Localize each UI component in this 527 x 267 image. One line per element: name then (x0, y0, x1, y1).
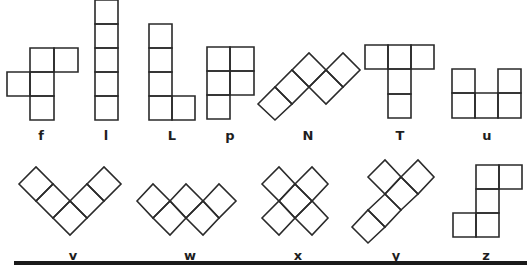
pentomino-cell (476, 189, 499, 213)
pentomino-cell (352, 210, 385, 243)
pentomino-cell (309, 70, 343, 104)
pentomino-cell (452, 69, 475, 93)
pentomino-N (258, 53, 360, 120)
pentomino-x (262, 167, 328, 235)
pentomino-cell (53, 201, 87, 235)
pentomino-cell (292, 53, 326, 87)
pentomino-cell (149, 48, 172, 72)
pentomino-cell (95, 96, 118, 120)
pentomino-cell (95, 48, 118, 72)
pentomino-cell (385, 177, 418, 210)
piece-label-L: L (168, 129, 176, 142)
pentomino-v (19, 167, 121, 235)
pentomino-cell (476, 165, 499, 189)
pentomino-cell (388, 94, 411, 118)
pentomino-cell (258, 87, 292, 120)
pentomino-cell (368, 194, 401, 227)
pentomino-cell (7, 72, 30, 96)
pentomino-cell (30, 96, 54, 120)
pentomino-cell (295, 201, 328, 235)
pentomino-cell (207, 47, 230, 71)
pentomino-u (452, 69, 521, 118)
pentomino-w (137, 184, 236, 235)
pentomino-cell (275, 70, 309, 104)
pentomino-cell (262, 167, 295, 201)
pentomino-cell (170, 184, 203, 218)
bottom-rule (14, 261, 527, 265)
pentomino-cell (186, 201, 219, 235)
pentomino-cell (230, 47, 254, 71)
pentomino-cell (172, 96, 195, 120)
pentomino-cell (149, 24, 172, 48)
pentomino-L (149, 24, 195, 120)
pentomino-cell (137, 184, 170, 218)
pentomino-cell (70, 184, 104, 218)
pentomino-cell (207, 95, 230, 119)
pentomino-cell (95, 0, 118, 24)
piece-label-u: u (482, 129, 491, 142)
piece-label-T: T (396, 129, 405, 142)
pentomino-cell (203, 184, 236, 218)
pentomino-cell (498, 69, 521, 93)
pentomino-l (95, 0, 118, 120)
pentomino-T (365, 45, 434, 118)
pentomino-cell (149, 96, 172, 120)
pentomino-cell (326, 53, 360, 87)
piece-label-l: l (104, 129, 108, 142)
piece-label-N: N (303, 129, 314, 142)
pentomino-cell (475, 93, 498, 118)
pentomino-cell (365, 45, 388, 69)
pentomino-cell (498, 93, 521, 118)
pentomino-cell (401, 160, 434, 194)
pentomino-cell (207, 71, 230, 95)
pentomino-cell (19, 167, 53, 201)
pentomino-cell (388, 45, 411, 69)
pentomino-cell (452, 93, 475, 118)
pentomino-cell (453, 213, 476, 237)
piece-label-p: p (225, 129, 234, 142)
pentomino-cell (153, 201, 186, 235)
pentomino-cell (54, 48, 78, 72)
pentomino-cell (230, 71, 254, 95)
pentomino-cell (368, 160, 401, 194)
piece-label-f: f (38, 129, 44, 142)
pentomino-cell (149, 72, 172, 96)
pentomino-cell (95, 72, 118, 96)
pentomino-y (352, 160, 434, 243)
pentomino-cell (499, 165, 522, 189)
pentomino-cell (388, 69, 411, 94)
pentomino-cell (411, 45, 434, 69)
pentomino-cell (95, 24, 118, 48)
pentomino-f (7, 48, 78, 120)
pentomino-cell (295, 167, 328, 201)
pentomino-z (453, 165, 522, 237)
pentomino-cell (262, 201, 295, 235)
pentomino-cell (476, 213, 499, 237)
pentomino-cell (30, 48, 54, 72)
pentomino-diagram (0, 0, 527, 267)
pentomino-cell (30, 72, 54, 96)
pentomino-cell (36, 184, 70, 218)
pentomino-p (207, 47, 254, 119)
pentomino-cell (279, 184, 312, 218)
pentomino-cell (87, 167, 121, 201)
